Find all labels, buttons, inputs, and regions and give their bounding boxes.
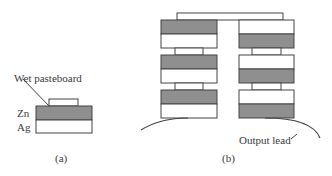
panel-a-cell: [23, 79, 92, 133]
left-stack: [161, 20, 217, 118]
output-lead-pointer: [291, 134, 297, 139]
output-lead-label: Output lead: [239, 134, 291, 146]
zn-layer: [36, 106, 92, 120]
output-lead-left: [141, 118, 188, 130]
wet-pasteboard: [49, 99, 78, 106]
right-stack: [239, 20, 294, 118]
ag-label: Ag: [17, 121, 30, 133]
wet-pasteboard-label: Wet pasteboard: [14, 72, 82, 84]
caption-b: (b): [222, 152, 235, 164]
zn-label: Zn: [17, 107, 29, 119]
top-bridge-pasteboard: [177, 13, 283, 20]
ag-layer: [36, 120, 92, 133]
diagram-canvas: [0, 0, 332, 176]
caption-a: (a): [55, 152, 67, 164]
